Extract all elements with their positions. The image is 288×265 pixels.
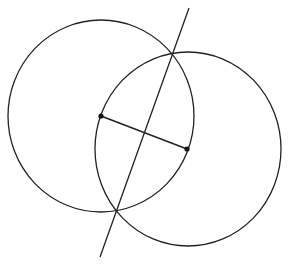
point-a (98, 113, 103, 118)
point-b (184, 146, 189, 151)
diagram-canvas (0, 0, 288, 265)
segment-ab (101, 116, 187, 149)
